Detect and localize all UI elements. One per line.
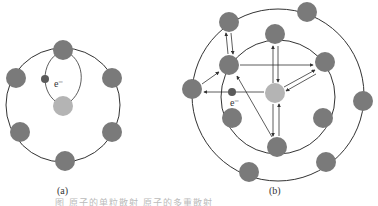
electron-label-b: e⁻ xyxy=(230,97,239,108)
atom xyxy=(10,122,30,142)
figure-caption: 图 原子的单粒散射 原子的多重散射 xyxy=(55,196,378,206)
electron xyxy=(228,88,236,96)
outer-atom xyxy=(239,162,259,182)
panel-b xyxy=(182,2,373,182)
outer-atom xyxy=(182,79,202,99)
electron-label-a: e⁻ xyxy=(54,78,63,89)
scattering-diagram xyxy=(0,0,378,206)
panel-b-label: (b) xyxy=(269,185,281,196)
atom xyxy=(102,122,122,142)
inner-atom xyxy=(222,108,242,128)
inner-atom xyxy=(265,24,285,44)
center-atom xyxy=(53,96,73,116)
outer-atom xyxy=(353,91,373,111)
outer-atom xyxy=(316,152,336,172)
panel-a xyxy=(6,40,122,171)
atom xyxy=(6,68,26,88)
inner-atom xyxy=(313,108,333,128)
panel-a-label: (a) xyxy=(57,185,68,196)
electron xyxy=(41,75,49,83)
atom xyxy=(102,68,122,88)
outer-atom xyxy=(297,2,317,22)
electron-path xyxy=(67,52,81,104)
inner-atom xyxy=(219,55,239,75)
scattering-arrows xyxy=(202,33,316,137)
atom xyxy=(53,40,73,60)
atom xyxy=(55,151,75,171)
inner-atom xyxy=(267,137,287,157)
outer-atom xyxy=(219,12,239,32)
center-atom xyxy=(265,83,285,103)
inner-atom xyxy=(315,52,335,72)
